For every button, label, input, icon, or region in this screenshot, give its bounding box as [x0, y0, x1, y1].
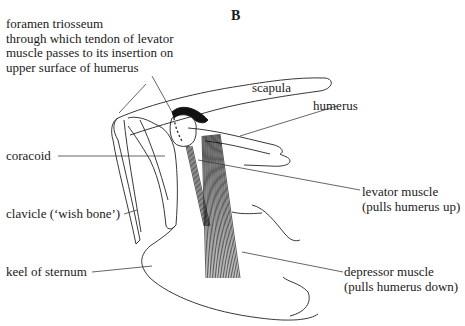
depressor-muscle: [202, 134, 240, 278]
leader-clavicle: [124, 210, 137, 214]
leader-keel: [92, 266, 152, 272]
levator-fiber: [191, 146, 209, 226]
depressor-fiber: [216, 135, 232, 279]
label-clavicle: clavicle (‘wish bone’): [6, 207, 120, 222]
label-levator-muscle: levator muscle (pulls humerus up): [362, 185, 460, 214]
label-coracoid: coracoid: [6, 149, 51, 164]
coracoid-inner: [140, 120, 168, 200]
sternum-upper-edge: [232, 212, 262, 214]
label-scapula: scapula: [252, 81, 291, 96]
sternum-right-lobe: [252, 205, 300, 241]
depressor-fiber: [220, 134, 240, 278]
label-foramen-triosseum: foramen triosseum through which tendon o…: [6, 17, 174, 75]
bird-flight-muscle-diagram: B foramen: [0, 0, 465, 326]
scapula-shape: [118, 78, 331, 135]
sternum-right-lobe-lower: [283, 277, 309, 316]
leader-depressor: [242, 252, 343, 272]
label-keel-of-sternum: keel of sternum: [6, 265, 87, 280]
label-humerus: humerus: [313, 99, 358, 114]
leader-foramen-2: [152, 76, 172, 112]
coracoid-shape: [128, 117, 177, 229]
label-depressor-muscle: depressor muscle (pulls humerus down): [344, 265, 458, 294]
